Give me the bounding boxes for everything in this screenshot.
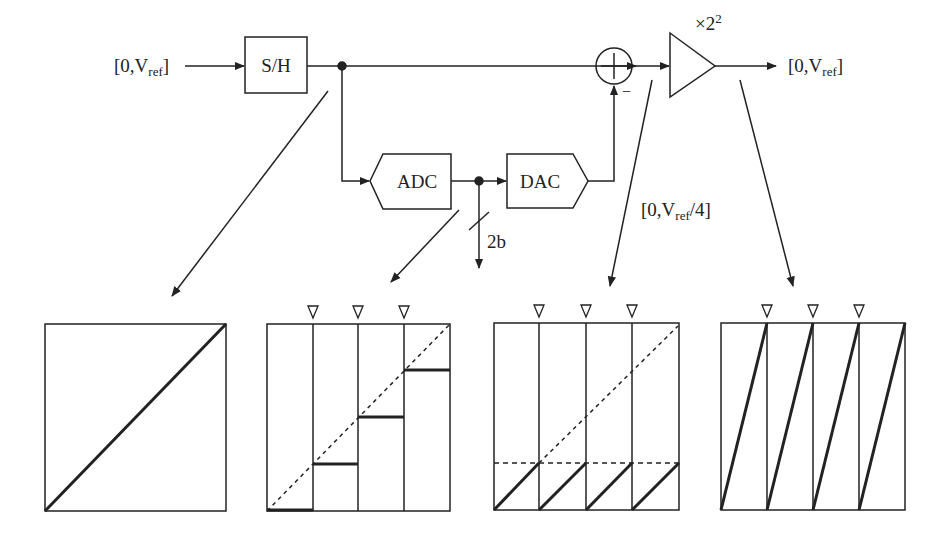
triangle-marker-icon	[762, 305, 772, 317]
dac-to-summer-arrow	[588, 86, 614, 181]
amplifier-block	[670, 33, 715, 97]
panel-sample-hold	[45, 324, 226, 511]
subtract-sign: −	[622, 84, 631, 100]
callout-arrow-adc	[391, 210, 459, 282]
adc-label: ADC	[383, 172, 451, 191]
diagram-canvas	[0, 0, 938, 534]
panel-residue	[494, 305, 679, 510]
gain-label: ×22	[695, 12, 722, 33]
callout-arrow-amp	[740, 80, 793, 286]
triangle-marker-icon	[399, 306, 409, 318]
triangle-marker-icon	[581, 305, 591, 317]
callout-arrow-residue	[610, 80, 652, 286]
triangle-marker-icon	[308, 306, 318, 318]
triangle-marker-icon	[627, 305, 637, 317]
callout-arrow-sh	[172, 91, 328, 296]
triangle-marker-icon	[353, 306, 363, 318]
triangle-marker-icon	[534, 305, 544, 317]
input-range-label: [0,Vref]	[114, 56, 169, 78]
sample-hold-label: S/H	[245, 56, 307, 75]
output-range-label: [0,Vref]	[788, 56, 843, 78]
panel-adc-dac	[267, 306, 450, 511]
bus-width-label: 2b	[487, 232, 506, 251]
triangle-marker-icon	[854, 305, 864, 317]
junction-dot	[475, 177, 483, 185]
adc-input-arrow	[342, 66, 369, 181]
triangle-marker-icon	[808, 305, 818, 317]
panel-amplified-residue	[721, 305, 905, 510]
dac-label: DAC	[507, 172, 573, 191]
junction-dot	[338, 62, 346, 70]
residue-range-label: [0,Vref/4]	[641, 200, 711, 222]
